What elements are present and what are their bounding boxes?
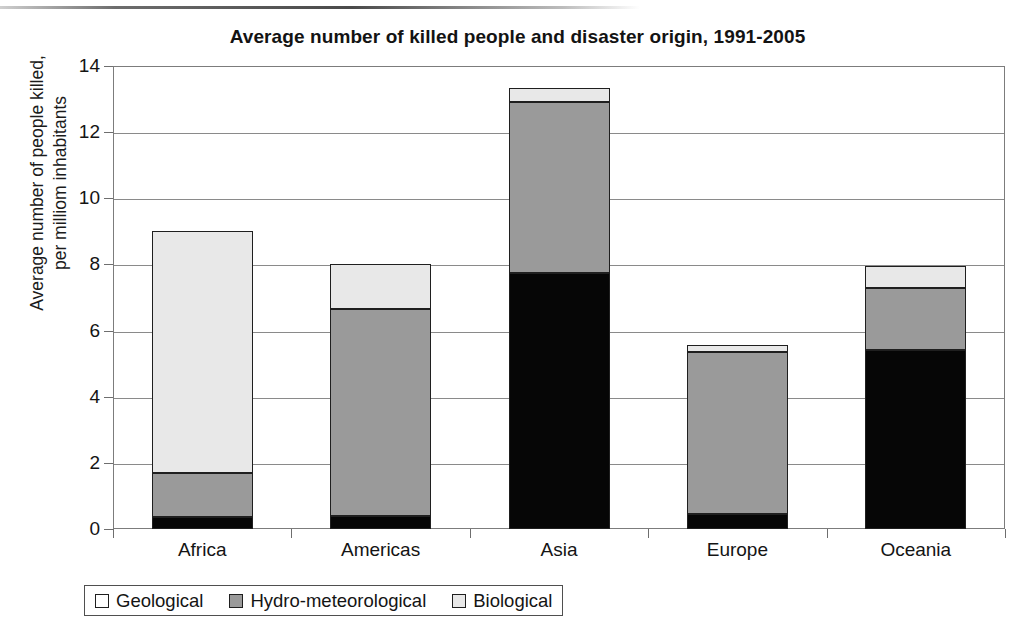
legend-item[interactable]: Biological xyxy=(452,590,552,612)
bar-segment[interactable] xyxy=(509,273,610,529)
bar-segment[interactable] xyxy=(330,264,431,309)
x-axis-category-label: Europe xyxy=(648,539,826,561)
bar-group[interactable] xyxy=(330,66,431,529)
x-axis-tick xyxy=(1005,529,1006,538)
y-axis-tick-labels: 02468101214 xyxy=(0,0,100,643)
y-axis-tick-label: 0 xyxy=(54,518,100,540)
y-axis-tick xyxy=(104,397,113,398)
y-axis-tick xyxy=(104,529,113,530)
legend-label: Geological xyxy=(116,590,203,612)
x-axis-tick xyxy=(470,529,471,538)
x-axis-category-label: Africa xyxy=(113,539,291,561)
bar-group[interactable] xyxy=(152,66,253,529)
legend-label: Biological xyxy=(473,590,552,612)
bar-segment[interactable] xyxy=(330,516,431,529)
y-axis-tick-label: 10 xyxy=(54,187,100,209)
bar-segment[interactable] xyxy=(509,102,610,272)
y-axis-tick xyxy=(104,463,113,464)
bar-segment[interactable] xyxy=(687,514,788,529)
y-axis-tick-label: 12 xyxy=(54,121,100,143)
bar-segment[interactable] xyxy=(509,88,610,103)
y-axis-tick-label: 14 xyxy=(54,55,100,77)
legend-swatch-icon xyxy=(229,594,243,608)
y-axis-tick xyxy=(104,198,113,199)
y-axis-tick-label: 6 xyxy=(54,320,100,342)
bar-group[interactable] xyxy=(509,66,610,529)
y-axis-tick-label: 2 xyxy=(54,452,100,474)
bar-segment[interactable] xyxy=(152,231,253,472)
bar-segment[interactable] xyxy=(865,266,966,287)
x-axis-category-label: Oceania xyxy=(827,539,1005,561)
bar-segment[interactable] xyxy=(865,288,966,351)
bar-segment[interactable] xyxy=(152,517,253,529)
bar-segment[interactable] xyxy=(865,350,966,529)
bar-group[interactable] xyxy=(687,66,788,529)
legend-item[interactable]: Hydro-meteorological xyxy=(229,590,426,612)
stacked-bar-chart: Average number of killed people and disa… xyxy=(0,0,1035,643)
x-axis-tick xyxy=(648,529,649,538)
chart-title: Average number of killed people and disa… xyxy=(0,26,1035,48)
x-axis-tick xyxy=(113,529,114,538)
bar-segment[interactable] xyxy=(152,473,253,518)
stacked-bar[interactable] xyxy=(687,66,788,529)
stacked-bar[interactable] xyxy=(330,66,431,529)
x-axis-tick xyxy=(827,529,828,538)
legend-label: Hydro-meteorological xyxy=(250,590,426,612)
y-axis-tick xyxy=(104,331,113,332)
bar-segment[interactable] xyxy=(687,345,788,352)
legend-swatch-icon xyxy=(95,594,109,608)
legend-swatch-icon xyxy=(452,594,466,608)
bars-layer xyxy=(113,66,1005,529)
stacked-bar[interactable] xyxy=(865,66,966,529)
y-axis-tick xyxy=(104,264,113,265)
y-axis-tick xyxy=(104,132,113,133)
bar-segment[interactable] xyxy=(687,352,788,514)
stacked-bar[interactable] xyxy=(509,66,610,529)
y-axis-tick-label: 8 xyxy=(54,253,100,275)
bar-segment[interactable] xyxy=(330,309,431,516)
bar-group[interactable] xyxy=(865,66,966,529)
x-axis-tick xyxy=(291,529,292,538)
legend-item[interactable]: Geological xyxy=(95,590,203,612)
x-axis-category-label: Americas xyxy=(291,539,469,561)
x-axis-category-label: Asia xyxy=(470,539,648,561)
chart-legend: GeologicalHydro-meteorologicalBiological xyxy=(84,585,563,616)
y-axis-tick xyxy=(104,66,113,67)
stacked-bar[interactable] xyxy=(152,66,253,529)
y-axis-tick-label: 4 xyxy=(54,386,100,408)
